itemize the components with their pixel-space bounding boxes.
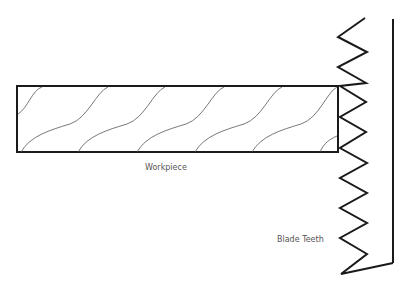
workpiece-label: Workpiece xyxy=(145,163,187,172)
blade-teeth xyxy=(338,18,393,274)
blade xyxy=(338,18,393,274)
workpiece xyxy=(17,86,338,152)
saw-diagram: Workpiece Blade Teeth xyxy=(0,0,414,291)
blade-teeth-label: Blade Teeth xyxy=(277,235,324,244)
workpiece-outline xyxy=(17,86,338,152)
